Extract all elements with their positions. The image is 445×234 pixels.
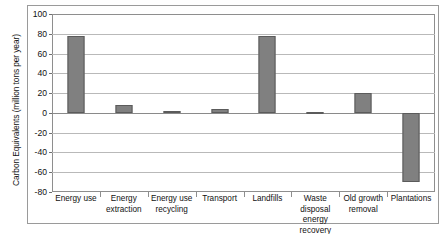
y-tick-label: 0 (42, 108, 47, 117)
y-tick-label: -20 (35, 128, 47, 137)
x-axis-label: Landfills (244, 194, 292, 205)
bar-chart-figure: Carbon Equivalents (million tons per yea… (0, 0, 445, 234)
x-axis-labels: Energy useEnergy extractionEnergy use re… (52, 194, 435, 228)
bar (259, 36, 276, 113)
bar-slot (387, 14, 435, 192)
y-tick-label: 40 (37, 69, 47, 78)
bar-slot (52, 14, 100, 192)
x-axis-label: Energy extraction (100, 194, 148, 215)
bar-slot (196, 14, 244, 192)
y-tick-mark (49, 192, 52, 193)
bar (403, 113, 420, 182)
x-axis-label: Plantations (387, 194, 435, 205)
bar (355, 93, 372, 113)
y-tick-label: -60 (35, 168, 47, 177)
bar (307, 112, 324, 114)
x-axis-label: Energy use (52, 194, 100, 205)
y-tick-label: 20 (37, 89, 47, 98)
plot-region: 100806040200-20-40-60-80 (52, 14, 435, 192)
bar (163, 111, 180, 113)
y-tick-label: -40 (35, 148, 47, 157)
x-axis-label: Waste disposal energy recovery (291, 194, 339, 234)
y-tick-label: 80 (37, 29, 47, 38)
bar (67, 36, 84, 113)
bar-slot (291, 14, 339, 192)
bars-layer (52, 14, 435, 192)
bar-slot (339, 14, 387, 192)
x-axis-label: Energy use recycling (148, 194, 196, 215)
y-tick-label: 60 (37, 49, 47, 58)
x-axis-label: Transport (196, 194, 244, 205)
y-axis-title: Carbon Equivalents (million tons per yea… (11, 10, 21, 210)
bar (211, 109, 228, 113)
y-tick-label: 100 (33, 10, 47, 19)
bar-slot (244, 14, 292, 192)
x-axis-label: Old growth removal (339, 194, 387, 215)
bar-slot (100, 14, 148, 192)
bar (115, 105, 132, 113)
bar-slot (148, 14, 196, 192)
y-tick-label: -80 (35, 188, 47, 197)
